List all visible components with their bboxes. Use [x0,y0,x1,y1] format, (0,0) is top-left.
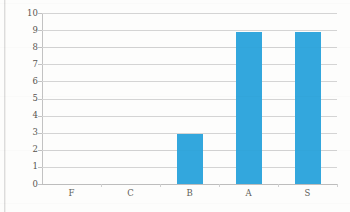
y-tick-label-7: 7 [8,59,38,69]
x-tick-label-S: S [288,188,328,198]
bar-S [295,32,321,184]
x-tick-mark-C [160,184,161,187]
gridline-10 [42,13,337,14]
y-tick-label-0: 0 [8,179,38,189]
x-axis-tick-labels: FCBAS [42,188,337,206]
x-tick-mark-A [278,184,279,187]
gridline-7 [42,64,337,65]
bar-A [236,32,262,184]
x-tick-label-C: C [111,188,151,198]
x-tick-mark-B [219,184,220,187]
y-tick-label-6: 6 [8,76,38,86]
x-tick-mark-S [337,184,338,187]
gridline-4 [42,116,337,117]
y-tick-label-1: 1 [8,161,38,171]
gridline-8 [42,47,337,48]
gridline-5 [42,99,337,100]
y-tick-label-4: 4 [8,110,38,120]
y-tick-label-3: 3 [8,127,38,137]
x-tick-label-A: A [229,188,269,198]
y-tick-label-10: 10 [8,8,38,18]
y-axis-tick-labels: 012345678910 [4,13,38,184]
gridline-0 [42,184,337,185]
y-tick-label-9: 9 [8,25,38,35]
bar-chart-screenshot: 012345678910 FCBAS [0,0,350,212]
y-tick-label-8: 8 [8,42,38,52]
x-tick-mark-F [101,184,102,187]
gridline-6 [42,81,337,82]
x-tick-label-B: B [170,188,210,198]
y-tick-label-5: 5 [8,93,38,103]
bar-B [177,134,203,184]
scan-texture-band [0,3,350,4]
x-tick-label-F: F [52,188,92,198]
gridline-9 [42,30,337,31]
y-tick-label-2: 2 [8,144,38,154]
plot-area [42,13,337,184]
